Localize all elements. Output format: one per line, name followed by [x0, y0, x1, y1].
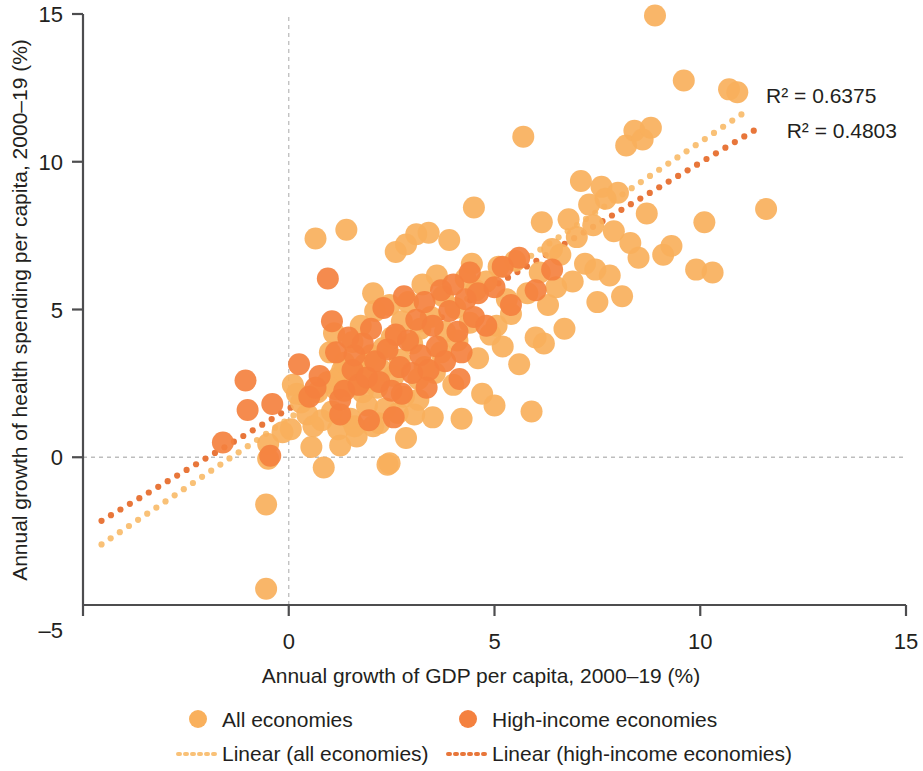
legend-label-all-economies: All economies	[222, 708, 353, 731]
trendline-dot	[226, 455, 232, 461]
trendline-dot	[162, 498, 168, 504]
x-tick-label-5: 5	[488, 629, 500, 654]
data-point	[418, 222, 440, 244]
data-point	[235, 369, 257, 391]
legend-label-linear-high-income: Linear (high-income economies)	[492, 742, 792, 765]
data-point	[484, 276, 506, 298]
data-point	[702, 262, 724, 284]
data-point	[673, 69, 695, 91]
trendline-dot	[240, 433, 246, 439]
data-point	[693, 211, 715, 233]
trendline-dot	[628, 201, 634, 207]
trendline-dot	[126, 523, 132, 529]
data-point	[628, 247, 650, 269]
trendline-dot	[703, 156, 709, 162]
trendline-dot	[245, 443, 251, 449]
trendline-dot	[172, 492, 178, 498]
trendline-dot	[609, 212, 615, 218]
trendline-dot	[666, 178, 672, 184]
data-point	[484, 395, 506, 417]
trendline-dot	[675, 173, 681, 179]
chart-canvas: 051015–5051015 R² = 0.6375 R² = 0.4803 A…	[0, 0, 923, 771]
data-point	[541, 259, 563, 281]
trendline-dot	[693, 142, 699, 148]
trendline-dot	[738, 111, 744, 117]
data-point	[562, 270, 584, 292]
data-point	[305, 377, 327, 399]
data-point	[644, 4, 666, 26]
data-point	[335, 219, 357, 241]
trendline-dot	[193, 461, 199, 467]
x-tick-label-15: 15	[894, 629, 918, 654]
trendline-dot	[729, 118, 735, 124]
trendline-dot	[683, 148, 689, 154]
data-point	[451, 408, 473, 430]
trendline-dot	[135, 517, 141, 523]
data-point	[449, 368, 471, 390]
r2-high-income-label: R² = 0.4803	[787, 119, 897, 142]
trendline-dot	[117, 529, 123, 535]
data-point	[586, 291, 608, 313]
data-point	[422, 406, 444, 428]
trendline-dot	[181, 486, 187, 492]
data-point	[288, 353, 310, 375]
data-point	[379, 452, 401, 474]
data-point	[280, 418, 302, 440]
data-point	[358, 409, 380, 431]
data-point	[492, 335, 514, 357]
trendline-dot	[153, 504, 159, 510]
trendline-dot	[108, 512, 114, 518]
trendline-dot	[674, 154, 680, 160]
r2-all-economies-label: R² = 0.6375	[766, 84, 876, 107]
data-point	[321, 310, 343, 332]
data-point	[317, 267, 339, 289]
y-tick-label--5: –5	[39, 618, 63, 643]
data-point	[212, 431, 234, 453]
trendline-dot	[741, 133, 747, 139]
trendline-dot	[637, 195, 643, 201]
trendline-dot	[190, 480, 196, 486]
x-tick-label-10: 10	[688, 629, 712, 654]
y-tick-label-10: 10	[39, 150, 63, 175]
trendline-dot	[236, 449, 242, 455]
data-point	[584, 259, 606, 281]
data-point	[305, 228, 327, 250]
trendline-dot	[720, 124, 726, 130]
data-point	[383, 406, 405, 428]
trendline-dot	[647, 190, 653, 196]
trendline-dot	[629, 185, 635, 191]
data-point	[259, 445, 281, 467]
trendline-dot	[711, 130, 717, 136]
trendline-dot	[174, 472, 180, 478]
data-point	[553, 318, 575, 340]
data-point	[636, 202, 658, 224]
trendline-dot	[656, 167, 662, 173]
trendline-dot	[290, 412, 296, 418]
data-point	[393, 285, 415, 307]
data-point	[570, 170, 592, 192]
trendline-dot	[702, 136, 708, 142]
trendline-dot	[202, 455, 208, 461]
data-point	[255, 494, 277, 516]
trendline-dot	[269, 416, 275, 422]
y-axis-title: Annual growth of health spending per cap…	[8, 39, 31, 581]
legend-marker-all-economies	[189, 710, 207, 728]
data-point	[463, 197, 485, 219]
data-point	[416, 377, 438, 399]
data-point	[611, 285, 633, 307]
data-point	[261, 393, 283, 415]
y-axis-ticks	[72, 14, 83, 457]
trendline-dot	[117, 506, 123, 512]
data-point	[533, 332, 555, 354]
trendline-dot	[751, 128, 757, 134]
data-point	[582, 214, 604, 236]
data-point	[459, 262, 481, 284]
data-point	[446, 321, 468, 343]
trendline-dot	[732, 139, 738, 145]
x-tick-label-0: 0	[283, 629, 295, 654]
data-point	[395, 427, 417, 449]
trendline-dot	[638, 179, 644, 185]
data-point	[531, 211, 553, 233]
trendline-dot	[127, 501, 133, 507]
data-point	[755, 198, 777, 220]
